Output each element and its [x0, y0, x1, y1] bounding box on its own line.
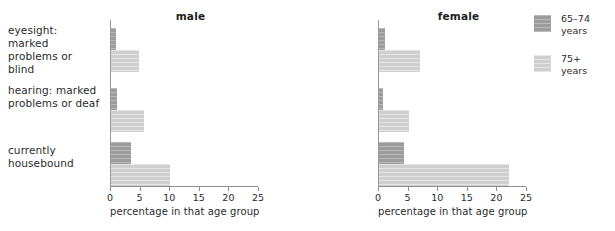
bar-female-eyesight-75plus	[379, 50, 420, 72]
bar-male-housebound-75plus	[111, 164, 170, 186]
category-label-housebound: currently housebound	[8, 144, 100, 170]
legend-label-75plus: 75+ years	[561, 53, 587, 77]
bar-male-hearing-75plus	[111, 110, 144, 132]
x-tick-label-female-15: 15	[461, 192, 473, 203]
x-tick-label-male-15: 15	[193, 192, 205, 203]
bar-female-hearing-65-74	[379, 88, 383, 110]
legend: 65–74 years 75+ years	[534, 14, 612, 94]
x-tick-label-male-0: 0	[107, 192, 113, 203]
x-tick-label-male-10: 10	[163, 192, 175, 203]
bar-female-eyesight-65-74	[379, 28, 385, 50]
x-tick-female-5	[408, 187, 409, 191]
x-axis-title-male: percentage in that age group	[110, 206, 258, 217]
x-tick-male-20	[228, 187, 229, 191]
plot-area-male: 0 5 10 15 20 25 percentage in that age g…	[110, 20, 258, 186]
category-label-hearing: hearing: marked problems or deaf	[8, 84, 100, 110]
bar-male-eyesight-65-74	[111, 28, 116, 50]
category-label-eyesight: eyesight: marked problems or blind	[8, 24, 100, 76]
bar-male-hearing-65-74	[111, 88, 117, 110]
x-tick-label-female-20: 20	[490, 192, 502, 203]
x-tick-label-female-5: 5	[405, 192, 411, 203]
bar-female-hearing-75plus	[379, 110, 409, 132]
x-tick-male-5	[140, 187, 141, 191]
x-tick-female-25	[526, 187, 527, 191]
chart-figure: eyesight: marked problems or blind heari…	[0, 0, 615, 231]
category-label-column: eyesight: marked problems or blind heari…	[0, 0, 108, 195]
x-tick-label-female-25: 25	[520, 192, 532, 203]
x-tick-label-male-25: 25	[252, 192, 264, 203]
x-axis-title-female: percentage in that age group	[378, 206, 526, 217]
x-tick-female-10	[437, 187, 438, 191]
x-tick-female-0	[378, 187, 379, 191]
legend-swatch-75plus-icon	[534, 55, 551, 72]
x-tick-male-0	[110, 187, 111, 191]
bar-male-housebound-65-74	[111, 142, 131, 164]
legend-label-65-74: 65–74 years	[561, 13, 590, 37]
x-tick-female-15	[467, 187, 468, 191]
x-tick-label-female-10: 10	[431, 192, 443, 203]
x-tick-label-male-5: 5	[137, 192, 143, 203]
legend-item-75plus: 75+ years	[534, 54, 612, 86]
x-axis-line-female	[378, 186, 526, 187]
bar-female-housebound-75plus	[379, 164, 509, 186]
panel-male: male 0 5 10 15 20 25 percentage in	[108, 0, 273, 231]
x-axis-line-male	[110, 186, 258, 187]
panel-female: female 0 5 10 15 20 25 percentage in tha…	[376, 0, 541, 231]
legend-item-65-74: 65–74 years	[534, 14, 612, 46]
x-tick-male-25	[258, 187, 259, 191]
legend-swatch-65-74-icon	[534, 15, 551, 32]
bar-male-eyesight-75plus	[111, 50, 139, 72]
bar-female-housebound-65-74	[379, 142, 404, 164]
x-tick-male-10	[169, 187, 170, 191]
plot-area-female: 0 5 10 15 20 25 percentage in that age g…	[378, 20, 526, 186]
x-tick-label-male-20: 20	[222, 192, 234, 203]
x-tick-female-20	[496, 187, 497, 191]
x-tick-male-15	[199, 187, 200, 191]
x-tick-label-female-0: 0	[375, 192, 381, 203]
